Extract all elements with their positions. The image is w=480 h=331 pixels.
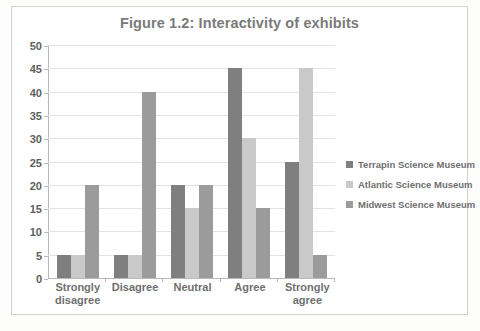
bar-group [49,45,106,278]
y-axis-tick-mark [44,116,48,117]
bar-group [221,45,278,278]
bars-layer [49,45,335,278]
bar [114,255,128,278]
x-axis-category-label: Agree [221,281,278,307]
y-axis-tick-mark [44,279,48,280]
legend-item: Atlantic Science Museum [346,179,466,190]
x-axis-category-label: Strongly agree [279,281,336,307]
legend-label: Terrapin Science Museum [358,159,475,170]
gridline: 0 [48,278,335,279]
legend-label: Atlantic Science Museum [358,179,473,190]
y-axis-tick-mark [44,256,48,257]
y-axis-tick-mark [44,93,48,94]
legend-item: Midwest Science Museum [346,199,466,210]
bar-group [278,45,335,278]
y-axis-tick-mark [44,139,48,140]
y-axis-tick-label: 35 [30,110,42,122]
y-axis-tick-mark [44,209,48,210]
x-axis-category-label: Strongly disagree [49,281,106,307]
bar [85,185,99,278]
y-axis-tick-mark [44,69,48,70]
bar [71,255,85,278]
x-axis-category-label: Neutral [164,281,221,307]
bar [142,92,156,278]
legend-label: Midwest Science Museum [358,199,475,210]
y-axis-tick-mark [44,46,48,47]
bar [285,162,299,279]
y-axis-tick-label: 0 [36,273,42,285]
y-axis-tick-mark [44,186,48,187]
y-axis-tick-label: 30 [30,133,42,145]
y-axis-tick-label: 40 [30,87,42,99]
bar [171,185,185,278]
legend-swatch-icon [346,201,353,208]
chart-legend: Terrapin Science MuseumAtlantic Science … [346,159,466,219]
bar [242,138,256,278]
x-axis-category-label: Disagree [106,281,163,307]
y-axis-tick-label: 10 [30,226,42,238]
bar [313,255,327,278]
bar [256,208,270,278]
legend-swatch-icon [346,161,353,168]
bar [185,208,199,278]
bar [199,185,213,278]
x-axis-labels: Strongly disagreeDisagreeNeutralAgreeStr… [49,281,336,307]
y-axis-tick-label: 45 [30,63,42,75]
plot-area: 50454035302520151050 [48,45,335,278]
y-axis-tick-mark [44,232,48,233]
bar [228,68,242,278]
legend-item: Terrapin Science Museum [346,159,466,170]
chart-frame: Figure 1.2: Interactivity of exhibits 50… [11,6,468,315]
y-axis-tick-mark [44,163,48,164]
y-axis-tick-label: 15 [30,203,42,215]
legend-swatch-icon [346,181,353,188]
bar-group [106,45,163,278]
bar [299,68,313,278]
bar [57,255,71,278]
y-axis-tick-label: 25 [30,157,42,169]
y-axis-tick-label: 20 [30,180,42,192]
y-axis-tick-label: 5 [36,250,42,262]
chart-title: Figure 1.2: Interactivity of exhibits [12,15,467,31]
y-axis-tick-label: 50 [30,40,42,52]
bar-group [163,45,220,278]
bar [128,255,142,278]
